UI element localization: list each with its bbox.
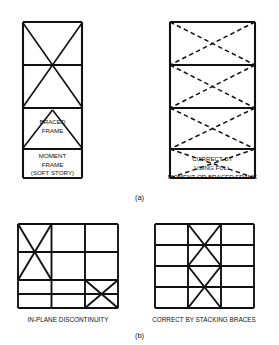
diagram-b-left: IN-PLANE DISCONTINUITY <box>18 224 118 323</box>
structural-irregularity-figure: BRACED FRAME MOMENT FRAME (SOFT STORY) <box>0 0 279 345</box>
label-moment-or-braced-frame-a: MOMENT OR BRACED FRAME <box>168 173 257 180</box>
caption-correct-by-stacking-braces: CORRECT BY STACKING BRACES <box>152 316 256 323</box>
frame-grid-b-right <box>155 224 254 308</box>
label-moment-frame-line1: MOMENT <box>39 152 67 159</box>
panel-label-b: (b) <box>135 331 145 340</box>
panel-label-a: (a) <box>135 193 145 202</box>
caption-in-plane-discontinuity: IN-PLANE DISCONTINUITY <box>28 316 110 323</box>
diagram-a-right: CORRECT BY USING FULL MOMENT OR BRACED F… <box>168 22 257 180</box>
label-braced-frame-line2: FRAME <box>42 127 64 134</box>
figure-root: BRACED FRAME MOMENT FRAME (SOFT STORY) <box>0 0 279 345</box>
label-correct-by-a: CORRECT BY <box>192 155 232 162</box>
label-using-full-a: USING FULL <box>194 164 231 171</box>
label-soft-story: (SOFT STORY) <box>31 169 74 176</box>
diagram-b-right: CORRECT BY STACKING BRACES <box>152 224 256 323</box>
label-braced-frame-line1: BRACED <box>40 118 66 125</box>
diagram-a-left: BRACED FRAME MOMENT FRAME (SOFT STORY) <box>23 22 82 178</box>
label-moment-frame-line2: FRAME <box>42 161 64 168</box>
